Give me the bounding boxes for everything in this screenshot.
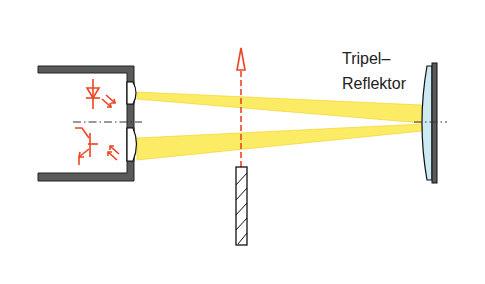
emitter-lens — [127, 82, 136, 104]
reflex-light-barrier-diagram: Tripel– Reflektor — [0, 0, 485, 284]
reflector-prism — [422, 66, 432, 180]
reflected-beam — [137, 124, 422, 160]
led-icon — [86, 79, 115, 109]
housing-frame — [38, 66, 134, 181]
phototransistor-icon — [75, 128, 119, 165]
sensor-housing — [38, 66, 137, 181]
object-hatched-bar — [236, 167, 247, 245]
reflector-label-line2: Reflektor — [342, 75, 407, 92]
receiver-lens — [127, 128, 137, 161]
reflector-label-line1: Tripel– — [342, 50, 390, 67]
reflector-plate — [432, 63, 437, 183]
light-beams — [137, 92, 422, 160]
emitted-beam — [137, 92, 422, 123]
